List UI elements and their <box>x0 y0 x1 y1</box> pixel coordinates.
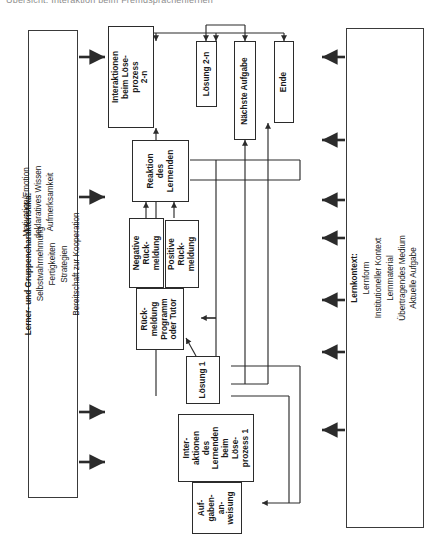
node-reaktion-des-lernenden-label: ReaktiondesLernenden <box>146 150 175 192</box>
flowchart-canvas: Übersicht: Interaktion beim Fremdsprache… <box>0 0 431 553</box>
node-loesung-1-label: Lösung 1 <box>198 362 208 399</box>
node-loesung-2n-label: Lösung 2-n <box>202 52 212 97</box>
left-context-panel: Lerner- und Gruppencharakteristika: Selb… <box>28 30 78 498</box>
node-negative-rueckmeldung[interactable]: NegativeRück-meldung <box>129 218 164 288</box>
right-context-panel-text: Lernkontext: Lernform Institutioneller K… <box>349 235 420 321</box>
node-loesung-1[interactable]: Lösung 1 <box>186 356 220 404</box>
right-panel-item-4: Aktuelle Aufgabe <box>409 235 421 321</box>
right-panel-item-3: Übertragendes Medium <box>397 235 409 321</box>
node-rueckmeldung-programm-oder-tutor[interactable]: Rück-meldungProgrammoder Tutor <box>136 288 184 350</box>
node-rueckmeldung-programm-oder-tutor-label: Rück-meldungProgrammoder Tutor <box>140 298 179 340</box>
right-panel-item-0: Lernform <box>361 235 373 321</box>
left-panel-item-2: Strategien <box>59 193 71 335</box>
node-positive-rueckmeldung-label: PositiveRück-meldung <box>167 237 196 272</box>
node-interaktionen-2n-label: Interaktionenbeim Löse-prozess2-n <box>111 51 150 103</box>
right-panel-item-1: Institutioneller Kontext <box>373 235 385 321</box>
node-ende-label: Ende <box>279 72 289 92</box>
node-negative-rueckmeldung-label: NegativeRück-meldung <box>132 236 161 271</box>
node-naechste-aufgabe-label: Nächste Aufgabe <box>240 57 250 124</box>
node-positive-rueckmeldung[interactable]: PositiveRück-meldung <box>165 220 199 288</box>
node-interaktionen-1-label: Inter-aktionendesLernendenbeimLöse-proze… <box>182 427 250 469</box>
node-naechste-aufgabe[interactable]: Nächste Aufgabe <box>234 41 256 140</box>
left-panel-item-4: Motivation/Emotion <box>21 166 33 239</box>
left-context-panel-text-col2: Motivation/Emotion deklaratives Wissen A… <box>21 166 57 239</box>
left-panel-item-3: Bereitschaft zur Kooperation <box>71 193 83 335</box>
left-panel-item-6: Aufmerksamkeit <box>45 166 57 239</box>
right-context-panel: Lernkontext: Lernform Institutioneller K… <box>346 28 424 528</box>
node-reaktion-des-lernenden[interactable]: ReaktiondesLernenden <box>132 140 189 202</box>
node-aufgabenanweisung-label: Auf-gaben-an-weisung <box>197 491 236 524</box>
node-loesung-2n[interactable]: Lösung 2-n <box>196 41 217 107</box>
node-interaktionen-1[interactable]: Inter-aktionendesLernendenbeimLöse-proze… <box>178 414 254 482</box>
left-panel-item-5: deklaratives Wissen <box>33 166 45 239</box>
node-aufgabenanweisung[interactable]: Auf-gaben-an-weisung <box>192 482 242 534</box>
node-ende[interactable]: Ende <box>274 41 294 123</box>
node-interaktionen-2n[interactable]: Interaktionenbeim Löse-prozess2-n <box>108 26 154 128</box>
right-panel-item-2: Lernmaterial <box>385 235 397 321</box>
right-panel-heading: Lernkontext: <box>349 235 361 321</box>
